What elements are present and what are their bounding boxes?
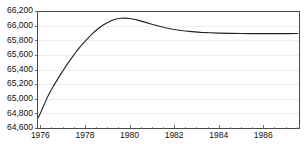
line-chart: 66,20066,00065,80065,60065,40065,20065,0… <box>0 0 307 144</box>
y-axis-tick-label: 65,200 <box>7 78 33 88</box>
y-axis-tick-label: 64,600 <box>7 122 33 132</box>
y-axis-tick-label: 65,400 <box>7 64 33 74</box>
x-axis-tick-label: 1986 <box>254 130 273 140</box>
y-axis-tick-label: 65,600 <box>7 49 33 59</box>
x-axis-tick-label: 1978 <box>75 130 94 140</box>
x-axis-tick-label: 1980 <box>120 130 139 140</box>
y-axis-tick-label: 66,200 <box>7 5 33 15</box>
chart-container: 66,20066,00065,80065,60065,40065,20065,0… <box>0 0 307 144</box>
chart-background <box>0 0 307 144</box>
x-axis-tick-label: 1976 <box>31 130 50 140</box>
x-axis-tick-label: 1984 <box>209 130 228 140</box>
x-axis-tick-label: 1982 <box>165 130 184 140</box>
y-axis-tick-label: 65,800 <box>7 35 33 45</box>
y-axis-tick-label: 65,000 <box>7 93 33 103</box>
y-axis-tick-label: 64,800 <box>7 108 33 118</box>
y-axis-tick-labels: 66,20066,00065,80065,60065,40065,20065,0… <box>7 5 33 132</box>
y-axis-tick-label: 66,000 <box>7 20 33 30</box>
